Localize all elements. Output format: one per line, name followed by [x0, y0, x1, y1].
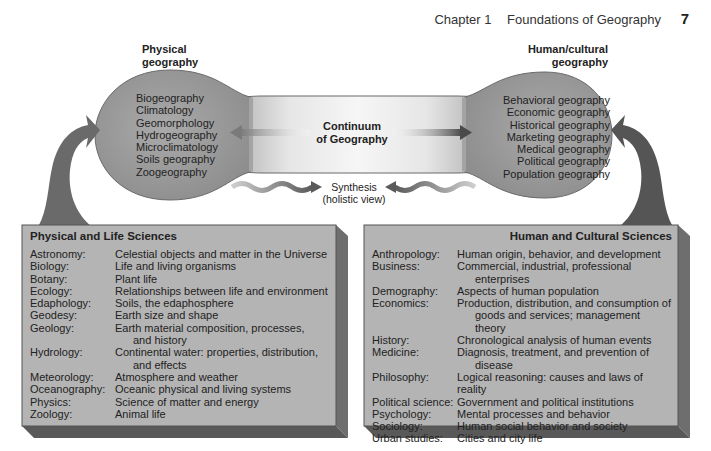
definition-text: Human social behavior and society	[457, 420, 628, 432]
term: Botany:	[30, 273, 115, 285]
term: Medicine:	[372, 346, 457, 371]
term: Zoology:	[30, 408, 115, 420]
definition-continuation: goods and services; management theory	[457, 309, 672, 334]
term: Edaphology:	[30, 297, 115, 309]
table-row: Philosophy:Logical reasoning: causes and…	[372, 371, 672, 396]
table-row: Hydrology:Continental water: properties,…	[30, 346, 330, 371]
definition-continuation: and history	[115, 334, 305, 346]
definition-text: Commercial, industrial, professional	[457, 260, 631, 272]
definition: Logical reasoning: causes and laws of re…	[457, 371, 672, 396]
term: Astronomy:	[30, 248, 115, 260]
definition-text: Continental water: properties, distribut…	[115, 346, 318, 358]
term: Urban studies:	[372, 432, 457, 444]
table-row: Botany:Plant life	[30, 273, 330, 285]
list-item: Zoogeography	[136, 166, 218, 178]
label-line: of Geography	[310, 133, 394, 146]
heading-line: geography	[490, 56, 608, 69]
term: Biology:	[30, 260, 115, 272]
list-item: Climatology	[136, 104, 218, 116]
list-item: Biogeography	[136, 92, 218, 104]
table-row: Urban studies:Cities and city life	[372, 432, 672, 444]
definition-continuation: and effects	[115, 359, 318, 371]
term: Physics:	[30, 396, 115, 408]
definition: Oceanic physical and living systems	[115, 383, 291, 395]
definition-text: Mental processes and behavior	[457, 408, 610, 420]
definition-text: Science of matter and energy	[115, 396, 259, 408]
definition: Human social behavior and society	[457, 420, 628, 432]
physical-geography-list: Biogeography Climatology Geomorphology H…	[136, 92, 218, 178]
definition-text: Chronological analysis of human events	[457, 334, 651, 346]
term: Oceanography:	[30, 383, 115, 395]
label-line: Continuum	[310, 120, 394, 133]
definition: Earth size and shape	[115, 309, 218, 321]
continuum-label: Continuum of Geography	[310, 120, 394, 146]
human-sciences-box: Human and Cultural Sciences Anthropology…	[372, 230, 672, 445]
table-row: Economics:Production, distribution, and …	[372, 297, 672, 334]
wavy-arrow-right-icon	[232, 181, 322, 193]
definition-text: Government and political institutions	[457, 396, 634, 408]
table-row: Physics:Science of matter and energy	[30, 396, 330, 408]
list-item: Political geography	[468, 155, 610, 167]
table-row: Astronomy:Celestial objects and matter i…	[30, 248, 330, 260]
definition: Continental water: properties, distribut…	[115, 346, 318, 371]
table-row: Edaphology:Soils, the edaphosphere	[30, 297, 330, 309]
human-geography-heading: Human/cultural geography	[490, 43, 608, 69]
definition-text: Human origin, behavior, and development	[457, 248, 661, 260]
term: Psychology:	[372, 408, 457, 420]
physical-sciences-list: Astronomy:Celestial objects and matter i…	[30, 248, 330, 420]
term: Demography:	[372, 285, 457, 297]
definition-text: Diagnosis, treatment, and prevention of	[457, 346, 649, 358]
table-row: Anthropology:Human origin, behavior, and…	[372, 248, 672, 260]
definition: Science of matter and energy	[115, 396, 259, 408]
term: Meteorology:	[30, 371, 115, 383]
term: History:	[372, 334, 457, 346]
list-item: Hydrogeography	[136, 129, 218, 141]
table-row: Medicine:Diagnosis, treatment, and preve…	[372, 346, 672, 371]
table-row: Demography:Aspects of human population	[372, 285, 672, 297]
definition-text: Earth material composition, processes,	[115, 322, 305, 334]
definition-text: Aspects of human population	[457, 285, 599, 297]
list-item: Soils geography	[136, 153, 218, 165]
definition: Human origin, behavior, and development	[457, 248, 661, 260]
definition: Soils, the edaphosphere	[115, 297, 234, 309]
synthesis-label: Synthesis (holistic view)	[318, 181, 390, 205]
definition: Mental processes and behavior	[457, 408, 610, 420]
definition: Commercial, industrial, professionalente…	[457, 260, 631, 285]
definition-text: Relationships between life and environme…	[115, 285, 328, 297]
definition: Diagnosis, treatment, and prevention ofd…	[457, 346, 649, 371]
list-item: Economic geography	[468, 106, 610, 118]
curved-arrow-right-icon	[611, 115, 673, 227]
label-line: Synthesis	[318, 181, 390, 193]
table-row: Zoology:Animal life	[30, 408, 330, 420]
label-line: (holistic view)	[318, 193, 390, 205]
physical-sciences-box: Physical and Life Sciences Astronomy:Cel…	[30, 230, 330, 420]
physical-geography-heading: Physical geography	[142, 43, 198, 69]
definition-text: Animal life	[115, 408, 166, 420]
term: Hydrology:	[30, 346, 115, 371]
definition: Relationships between life and environme…	[115, 285, 328, 297]
wavy-arrow-left-icon	[385, 181, 475, 193]
definition: Life and living organisms	[115, 260, 236, 272]
definition-text: Oceanic physical and living systems	[115, 383, 291, 395]
list-item: Behavioral geography	[468, 94, 610, 106]
definition-text: Cities and city life	[457, 432, 543, 444]
definition-text: Celestial objects and matter in the Univ…	[115, 248, 327, 260]
definition: Animal life	[115, 408, 166, 420]
definition: Cities and city life	[457, 432, 543, 444]
table-row: Geology:Earth material composition, proc…	[30, 322, 330, 347]
curved-arrow-left-icon	[38, 115, 100, 227]
list-item: Population geography	[468, 168, 610, 180]
definition: Government and political institutions	[457, 396, 634, 408]
table-row: Business:Commercial, industrial, profess…	[372, 260, 672, 285]
human-sciences-list: Anthropology:Human origin, behavior, and…	[372, 248, 672, 445]
definition: Earth material composition, processes,an…	[115, 322, 305, 347]
definition-text: Logical reasoning: causes and laws of re…	[457, 371, 672, 396]
heading-line: Physical	[142, 43, 198, 56]
definition-text: Production, distribution, and consumptio…	[457, 297, 672, 309]
term: Philosophy:	[372, 371, 457, 396]
list-item: Medical geography	[468, 143, 610, 155]
definition-text: Life and living organisms	[115, 260, 236, 272]
table-row: Biology:Life and living organisms	[30, 260, 330, 272]
box-title: Human and Cultural Sciences	[372, 230, 672, 242]
table-row: History:Chronological analysis of human …	[372, 334, 672, 346]
